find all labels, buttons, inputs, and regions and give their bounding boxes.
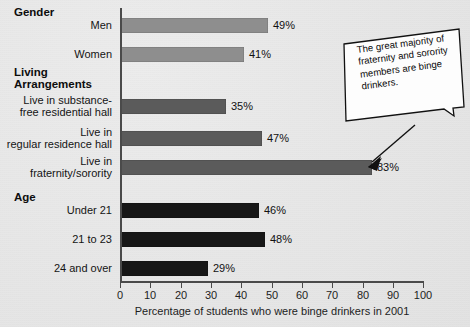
x-tick-label-50: 50: [266, 289, 278, 301]
x-tick-70: [332, 283, 333, 288]
category-label-substance-free-hall: Live in substance- free residential hall: [0, 95, 112, 118]
x-tick-label-80: 80: [357, 289, 369, 301]
binge-drinking-bar-chart: Gender Living Arrangements Age Men Women…: [0, 0, 470, 327]
x-tick-label-60: 60: [296, 289, 308, 301]
category-label-21-to-23: 21 to 23: [0, 234, 112, 246]
group-heading-age: Age: [14, 191, 36, 203]
x-tick-20: [181, 283, 182, 288]
bar-women: [120, 47, 244, 62]
x-tick-40: [241, 283, 242, 288]
category-label-women: Women: [0, 49, 112, 61]
bar-value-women: 41%: [249, 47, 271, 62]
bar-value-substance-free-hall: 35%: [231, 99, 253, 114]
x-axis-title: Percentage of students who were binge dr…: [120, 305, 424, 317]
x-tick-100: [423, 283, 424, 288]
bar-substance-free-hall: [120, 99, 226, 114]
x-tick-label-70: 70: [326, 289, 338, 301]
x-tick-label-100: 100: [414, 289, 432, 301]
bar-value-24-and-over: 29%: [213, 261, 235, 276]
x-tick-label-90: 90: [387, 289, 399, 301]
category-label-fraternity-sorority: Live in fraternity/sorority: [0, 156, 112, 179]
x-tick-10: [150, 283, 151, 288]
group-heading-living-arrangements: Living Arrangements: [14, 66, 92, 90]
x-tick-label-20: 20: [175, 289, 187, 301]
bar-24-and-over: [120, 261, 208, 276]
bar-value-under-21: 46%: [264, 203, 286, 218]
group-heading-gender: Gender: [14, 6, 54, 18]
callout-annotation: The great majority of fraternity and sor…: [340, 27, 465, 132]
x-tick-60: [302, 283, 303, 288]
x-tick-label-30: 30: [205, 289, 217, 301]
bar-value-men: 49%: [273, 18, 295, 33]
x-tick-50: [272, 283, 273, 288]
x-tick-label-0: 0: [117, 289, 123, 301]
x-tick-80: [363, 283, 364, 288]
x-tick-0: [120, 283, 121, 288]
category-label-24-and-over: 24 and over: [0, 263, 112, 275]
category-label-men: Men: [0, 20, 112, 32]
x-tick-90: [393, 283, 394, 288]
x-tick-30: [211, 283, 212, 288]
y-axis-line: [120, 8, 122, 281]
x-tick-label-10: 10: [144, 289, 156, 301]
bar-21-to-23: [120, 232, 265, 247]
bar-value-21-to-23: 48%: [270, 232, 292, 247]
bar-value-regular-residence-hall: 47%: [267, 131, 289, 146]
category-label-under-21: Under 21: [0, 205, 112, 217]
bar-regular-residence-hall: [120, 131, 262, 146]
category-label-regular-residence-hall: Live in regular residence hall: [0, 127, 112, 150]
x-tick-label-40: 40: [235, 289, 247, 301]
bar-men: [120, 18, 268, 33]
bar-under-21: [120, 203, 259, 218]
